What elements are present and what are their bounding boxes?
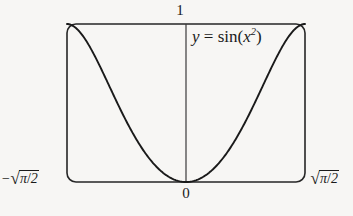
equation-lhs: y — [192, 27, 200, 46]
radicand-min: π/2 — [19, 170, 39, 186]
radicand-max-denominator: 2 — [331, 171, 338, 186]
equation-function-name: sin( — [218, 27, 244, 46]
radicand-max-numerator: π — [320, 171, 327, 186]
origin-label: 0 — [182, 186, 190, 201]
radicand-min-numerator: π — [20, 171, 27, 186]
radicand-min-denominator: 2 — [31, 171, 38, 186]
radical-sign-icon: √ — [311, 170, 320, 187]
radicand-max: π/2 — [319, 170, 339, 186]
radical-sign-icon: √ — [10, 170, 19, 187]
function-plot-figure: 1 0 −√π/2 √π/2 y = sin(x2) — [0, 0, 353, 216]
equation-close-paren: ) — [256, 27, 262, 46]
y-axis-max-label: 1 — [176, 3, 184, 18]
radical-group-min: √π/2 — [10, 170, 39, 186]
x-axis-max-label: √π/2 — [310, 170, 339, 186]
equation-argument-base: x — [243, 27, 251, 46]
equation-equals: = — [200, 27, 218, 46]
x-axis-min-label: −√π/2 — [2, 170, 39, 186]
plot-canvas — [0, 0, 353, 216]
minus-sign: − — [2, 171, 10, 186]
radical-group-max: √π/2 — [311, 170, 340, 186]
equation-annotation: y = sin(x2) — [192, 28, 262, 45]
